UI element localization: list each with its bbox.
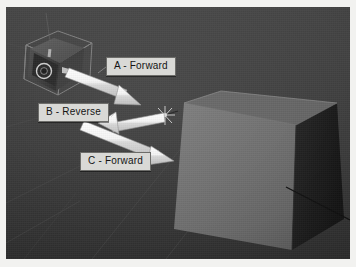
callout-label-a: A - Forward	[106, 57, 176, 76]
scene-graphics	[6, 7, 350, 259]
callout-label-c: C - Forward	[80, 152, 151, 171]
render-viewport: A - Forward B - Reverse C - Forward	[6, 7, 350, 259]
callout-label-b: B - Reverse	[38, 103, 109, 122]
cube-object	[174, 91, 344, 250]
figure-frame: A - Forward B - Reverse C - Forward	[0, 0, 356, 267]
